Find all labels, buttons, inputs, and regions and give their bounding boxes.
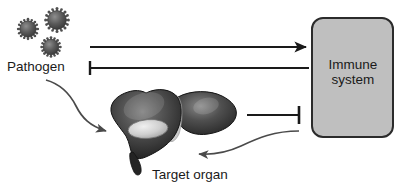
virus-particle [17,18,39,40]
diagram-graphics-layer [0,0,399,193]
inhibition-target-organ-to-immune-system [247,106,299,124]
liver-organ-icon [111,87,236,175]
virus-particles-icon [17,7,70,58]
virus-particle [40,36,62,58]
label-target-organ: Target organ [152,167,228,182]
diagram-canvas: Pathogen Target organ Immune system [0,0,399,193]
inhibition-immune-system-to-pathogen [90,61,309,75]
curved-arrow-immune-system-to-target-organ [199,131,299,154]
curved-arrow-pathogen-to-target-organ [46,80,106,131]
immune-system-label-line2: system [318,72,388,87]
immune-system-label-line1: Immune [329,57,378,72]
label-immune-system: Immune system [318,57,388,87]
label-pathogen: Pathogen [7,59,65,74]
virus-particle [44,7,70,33]
